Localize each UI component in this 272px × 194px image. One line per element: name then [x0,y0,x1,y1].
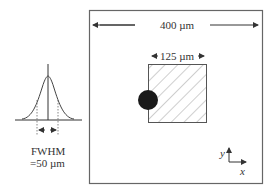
y-axis-label: y [220,147,225,159]
field-width-label: 400 µm [158,19,196,31]
inner-width-label: 125 µm [159,50,195,62]
laser-spot [138,90,158,110]
x-axis-label: x [240,165,245,177]
hatched-region [149,65,207,123]
coordinate-axes [229,148,246,162]
fwhm-label-line1: FWHM [31,145,65,157]
fwhm-label-line2: =50 µm [30,157,65,169]
gaussian-profile [15,64,82,135]
